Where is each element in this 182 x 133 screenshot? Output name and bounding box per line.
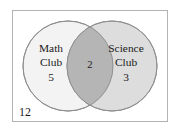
science-club-count: 3 [123,71,129,83]
science-club-name-line1: Science [108,42,143,54]
intersection-count: 2 [87,59,92,70]
universe-count: 12 [19,105,31,119]
science-club-name-line2: Club [115,56,137,68]
venn-diagram-figure: Math Club 5 Science Club 3 2 12 [0,0,182,133]
math-club-count: 5 [48,71,54,83]
math-club-name-line1: Math [39,42,63,54]
venn-diagram-canvas: Math Club 5 Science Club 3 2 12 [0,0,182,133]
math-club-name-line2: Club [40,56,62,68]
